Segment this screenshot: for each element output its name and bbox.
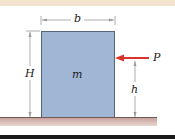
label-height-H: H xyxy=(25,67,35,80)
ground-surface xyxy=(0,117,157,126)
label-mass-m: m xyxy=(72,68,82,81)
bottom-border xyxy=(0,135,175,139)
label-force-height-h: h xyxy=(131,83,138,96)
label-force-P: P xyxy=(153,51,160,64)
label-width-b: b xyxy=(74,12,81,25)
